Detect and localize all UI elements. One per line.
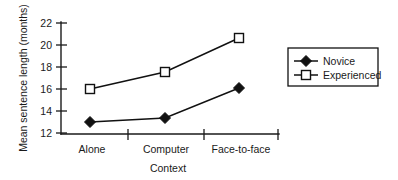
line-chart: 22 20 18 16 14 12 Alone Computer bbox=[0, 0, 398, 180]
x-tick-label-alone: Alone bbox=[79, 143, 106, 155]
x-axis-title: Context bbox=[150, 162, 186, 174]
series-line-experienced bbox=[90, 38, 239, 89]
data-point-experienced-computer bbox=[161, 68, 170, 77]
legend-marker-square-icon bbox=[302, 71, 311, 80]
data-point-experienced-alone bbox=[86, 85, 95, 94]
y-tick-label-22: 22 bbox=[40, 17, 52, 29]
chart-legend: Novice Experienced bbox=[288, 48, 382, 86]
y-tick-label-20: 20 bbox=[40, 39, 52, 51]
y-axis-title: Mean sentence length (months) bbox=[17, 4, 29, 152]
y-tick-label-14: 14 bbox=[40, 105, 52, 117]
x-tick-label-computer: Computer bbox=[143, 143, 190, 155]
chart-figure: 22 20 18 16 14 12 Alone Computer bbox=[0, 0, 398, 180]
data-point-novice-computer bbox=[160, 113, 171, 124]
y-tick-label-12: 12 bbox=[40, 127, 52, 139]
data-point-experienced-face-to-face bbox=[235, 34, 244, 43]
x-tick-label-face-to-face: Face-to-face bbox=[212, 143, 271, 155]
y-tick-label-16: 16 bbox=[40, 83, 52, 95]
data-point-novice-face-to-face bbox=[234, 83, 245, 94]
y-tick-label-18: 18 bbox=[40, 61, 52, 73]
legend-item-experienced[interactable]: Experienced bbox=[294, 69, 382, 81]
legend-label-experienced: Experienced bbox=[323, 69, 382, 81]
legend-label-novice: Novice bbox=[323, 55, 355, 67]
data-point-novice-alone bbox=[85, 117, 96, 128]
